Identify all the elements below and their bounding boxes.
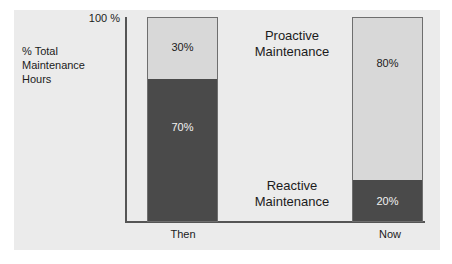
- y-axis-title-line-2: Maintenance: [22, 58, 122, 72]
- annotation-reactive-line-2: Maintenance: [232, 194, 352, 210]
- bar-now-segment-reactive: 20%: [353, 180, 422, 221]
- bar-now-proactive-value: 80%: [376, 58, 398, 69]
- y-axis-max-tick-label: 100 %: [60, 12, 120, 24]
- bar-now-segment-proactive: 80%: [353, 18, 422, 180]
- annotation-reactive-maintenance: Reactive Maintenance: [232, 178, 352, 210]
- category-label-then: Then: [138, 228, 228, 240]
- y-axis-line: [125, 17, 127, 223]
- bar-then-segment-proactive: 30%: [148, 18, 217, 79]
- bar-then-proactive-value: 30%: [171, 42, 193, 53]
- y-axis-title-line-1: % Total: [22, 44, 122, 58]
- y-axis-title-line-3: Hours: [22, 72, 122, 86]
- annotation-reactive-line-1: Reactive: [232, 178, 352, 194]
- category-label-now: Now: [345, 228, 435, 240]
- bar-now-reactive-value: 20%: [376, 196, 398, 207]
- bar-then: 30% 70%: [147, 17, 218, 222]
- bar-then-segment-reactive: 70%: [148, 79, 217, 221]
- annotation-proactive-line-1: Proactive: [232, 28, 352, 44]
- y-axis-title: % Total Maintenance Hours: [22, 44, 122, 86]
- annotation-proactive-line-2: Maintenance: [232, 44, 352, 60]
- maintenance-hours-chart: 100 % % Total Maintenance Hours 30% 70% …: [0, 0, 452, 264]
- annotation-proactive-maintenance: Proactive Maintenance: [232, 28, 352, 60]
- bar-then-reactive-value: 70%: [171, 122, 193, 133]
- bar-now: 80% 20%: [352, 17, 423, 222]
